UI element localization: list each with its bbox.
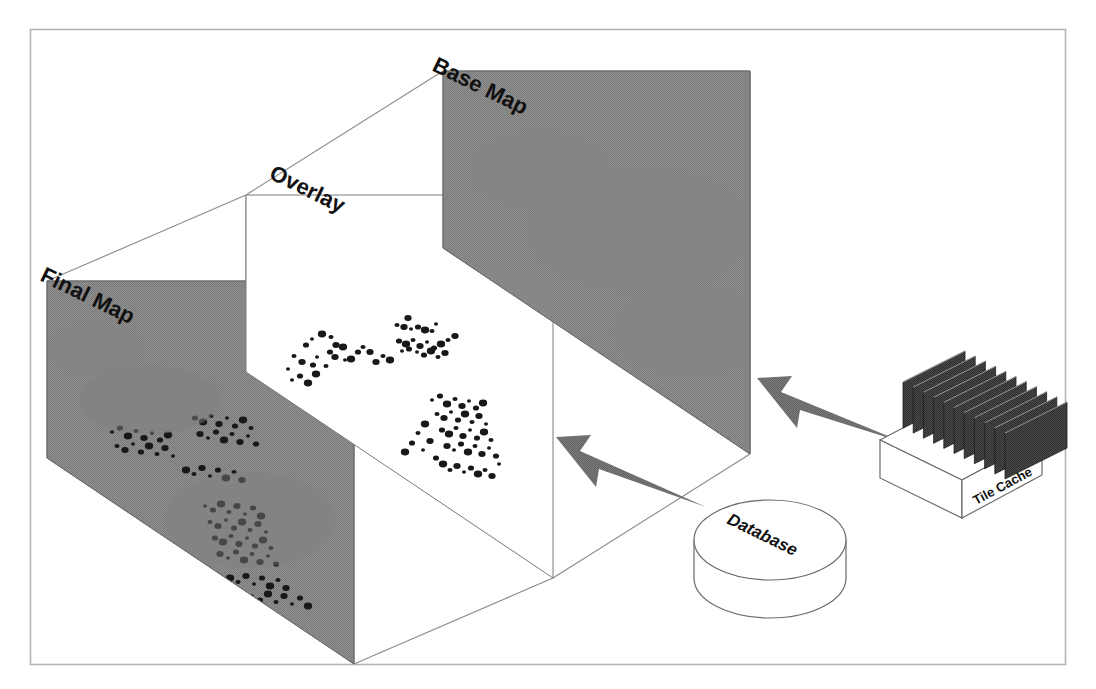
- map-dot: [435, 355, 440, 359]
- map-dot: [421, 421, 429, 428]
- map-dot: [360, 345, 365, 349]
- map-dot: [488, 473, 495, 479]
- map-dot: [421, 352, 427, 357]
- map-dot: [487, 446, 491, 449]
- map-dot: [386, 357, 394, 364]
- map-dot: [430, 398, 434, 401]
- map-dot: [402, 341, 410, 348]
- map-dot: [303, 342, 309, 347]
- map-dot: [252, 582, 256, 585]
- map-dot: [282, 585, 289, 591]
- map-dot: [459, 433, 466, 439]
- map-dot: [182, 467, 190, 474]
- map-dot: [468, 428, 472, 431]
- map-dot: [280, 593, 287, 599]
- map-dot: [473, 405, 479, 410]
- map-dot: [447, 468, 452, 472]
- map-dot: [264, 591, 272, 598]
- map-dot: [421, 448, 425, 451]
- map-dot: [215, 421, 222, 427]
- map-dot: [110, 430, 114, 433]
- map-dot: [304, 603, 312, 610]
- map-dot: [427, 348, 435, 355]
- map-dot: [343, 358, 347, 361]
- node-database[interactable]: Database: [694, 500, 846, 618]
- map-dot: [323, 364, 328, 368]
- map-dot: [121, 447, 128, 453]
- map-dot: [246, 434, 250, 437]
- map-dot: [421, 327, 429, 334]
- map-dot: [114, 444, 119, 448]
- map-dot: [310, 337, 314, 340]
- map-dot: [339, 344, 347, 351]
- map-dot: [479, 400, 487, 407]
- map-dot: [452, 448, 456, 451]
- map-dot: [225, 416, 229, 419]
- map-dot: [332, 342, 339, 348]
- map-dot: [312, 371, 320, 378]
- map-dot: [406, 346, 412, 351]
- map-dot: [161, 445, 168, 451]
- map-dot: [443, 443, 450, 449]
- map-dot: [409, 327, 413, 330]
- map-dot: [451, 333, 458, 339]
- map-dot: [445, 338, 450, 342]
- map-dot: [310, 362, 316, 367]
- node-tile-cache[interactable]: Tile Cache: [880, 351, 1067, 518]
- arrow-tile-cache-shape[interactable]: [757, 376, 905, 443]
- map-dot: [425, 340, 429, 343]
- map-dot: [273, 600, 278, 604]
- map-dot: [171, 454, 175, 457]
- arrow-tile-cache-to-base-map[interactable]: [757, 376, 905, 443]
- map-dot: [401, 449, 409, 456]
- map-dot: [215, 467, 221, 472]
- map-dot: [242, 573, 249, 579]
- map-dot: [415, 350, 419, 353]
- map-dot: [439, 427, 445, 432]
- map-dot: [396, 338, 402, 343]
- map-dot: [236, 439, 243, 445]
- map-dot: [493, 453, 499, 458]
- map-dot: [462, 470, 466, 473]
- map-dot: [286, 367, 290, 370]
- map-dot: [437, 341, 445, 348]
- map-dot: [474, 435, 480, 440]
- map-dot: [138, 449, 144, 454]
- map-dot: [347, 356, 355, 363]
- map-dot: [331, 354, 338, 360]
- map-dot: [232, 423, 238, 428]
- map-dot: [297, 373, 303, 378]
- map-dot: [315, 355, 319, 358]
- map-dot: [480, 429, 488, 436]
- map-dot: [259, 575, 265, 580]
- map-dot: [439, 461, 447, 468]
- map-dot: [437, 393, 443, 398]
- map-dot: [220, 437, 228, 444]
- map-dot: [140, 435, 147, 441]
- map-dot: [400, 324, 407, 330]
- map-dot: [488, 438, 493, 442]
- map-dot: [327, 349, 333, 354]
- map-dot: [416, 343, 423, 349]
- map-dot: [297, 595, 303, 600]
- map-dot: [445, 431, 453, 438]
- map-dot: [404, 315, 411, 321]
- map-dot: [449, 410, 453, 413]
- map-dot: [253, 441, 259, 446]
- map-dot: [452, 397, 457, 401]
- map-dot: [429, 329, 434, 333]
- map-dot: [400, 349, 404, 352]
- map-dot: [443, 401, 451, 408]
- map-dot: [366, 349, 373, 355]
- map-dot: [304, 380, 312, 387]
- map-dot: [461, 411, 469, 418]
- map-dot: [372, 359, 379, 365]
- map-dot: [196, 431, 203, 437]
- map-dot: [453, 426, 458, 430]
- map-dot: [328, 335, 333, 339]
- connector-top-front: [47, 195, 246, 281]
- map-dot: [415, 324, 421, 329]
- map-dot: [266, 583, 274, 590]
- map-dot: [124, 433, 132, 440]
- map-dot: [157, 437, 163, 442]
